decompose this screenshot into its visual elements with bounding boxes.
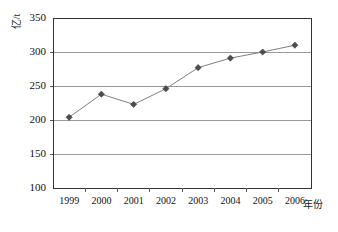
x-tick-label: 2005	[246, 195, 280, 206]
y-tick-label: 200	[12, 113, 46, 125]
data-point-marker	[131, 101, 137, 107]
gridlines	[53, 52, 311, 154]
x-tick-label: 2001	[117, 195, 151, 206]
x-tick-label: 1999	[52, 195, 86, 206]
data-line	[69, 45, 295, 117]
plot-border	[53, 18, 311, 188]
y-tick-label: 250	[12, 79, 46, 91]
y-tick-label: 100	[12, 181, 46, 193]
data-point-marker	[292, 42, 298, 48]
data-point-marker	[260, 49, 266, 55]
x-tick-label: 2000	[84, 195, 118, 206]
x-tick-label: 2002	[149, 195, 183, 206]
data-point-marker	[66, 114, 72, 120]
x-tick-label: 2004	[213, 195, 247, 206]
x-tick-label: 2006	[278, 195, 312, 206]
data-point-marker	[227, 55, 233, 61]
x-tick-label: 2003	[181, 195, 215, 206]
y-tick-label: 300	[12, 45, 46, 57]
line-chart: 亿/t 年份 100150200250300350 19992000200120…	[0, 0, 338, 232]
y-tick-label: 350	[12, 11, 46, 23]
data-markers	[66, 42, 298, 120]
data-point-marker	[163, 86, 169, 92]
series-polyline	[69, 45, 295, 117]
data-point-marker	[195, 65, 201, 71]
y-tick-label: 150	[12, 147, 46, 159]
x-axis-tick-marks	[50, 52, 279, 192]
plot-frame	[53, 18, 311, 188]
